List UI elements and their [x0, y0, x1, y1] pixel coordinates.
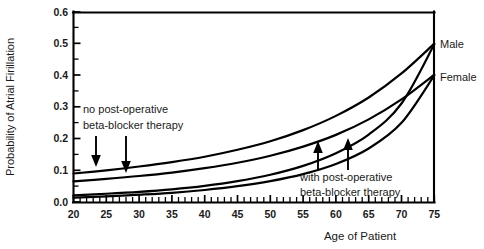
- chart-svg: 0.0 0.1 0.2 0.3 0.4 0.5 0.6: [0, 0, 484, 249]
- x-axis-title: Age of Patient: [324, 230, 397, 242]
- annotation-no-therapy-line1: no post-operative: [83, 103, 168, 115]
- x-tick-label: 40: [199, 208, 211, 220]
- x-tick-label: 65: [363, 208, 375, 220]
- x-tick-label: 45: [232, 208, 244, 220]
- y-tick-label: 0.6: [53, 6, 68, 18]
- x-tick-label: 25: [100, 208, 112, 220]
- x-tick-label: 30: [133, 208, 145, 220]
- x-tick-label: 35: [166, 208, 178, 220]
- x-tick-label: 60: [330, 208, 342, 220]
- series-label-female: Female: [440, 71, 477, 83]
- y-tick-label: 0.2: [53, 132, 68, 144]
- series-label-male: Male: [440, 38, 464, 50]
- y-tick-label: 0.1: [53, 164, 68, 176]
- annotation-arrow-down-1: [91, 136, 101, 167]
- annotation-with-therapy: with post-operative beta-blocker therapy: [299, 138, 401, 198]
- y-axis-title: Probability of Atrial Firillation: [4, 38, 16, 176]
- chart-figure: 0.0 0.1 0.2 0.3 0.4 0.5 0.6: [0, 0, 484, 249]
- annotation-arrow-up-1: [313, 141, 323, 170]
- y-tick-label: 0.4: [53, 69, 68, 81]
- y-tick-label: 0.3: [53, 100, 68, 112]
- annotation-arrow-up-2: [343, 138, 353, 170]
- y-tick-labels: 0.0 0.1 0.2 0.3 0.4 0.5 0.6: [53, 6, 68, 208]
- x-tick-label: 70: [396, 208, 408, 220]
- annotation-no-therapy-line2: beta-blocker therapy: [83, 119, 184, 131]
- x-tick-labels: 20 25 30 35 40 45 50 55 60 65 70 75: [68, 208, 441, 220]
- x-tick-label: 20: [68, 208, 80, 220]
- x-tick-label: 75: [428, 208, 440, 220]
- x-tick-label: 55: [297, 208, 309, 220]
- x-tick-label: 50: [264, 208, 276, 220]
- y-tick-label: 0.5: [53, 37, 68, 49]
- annotation-with-therapy-line1: with post-operative: [299, 171, 392, 183]
- annotation-with-therapy-line2: beta-blocker therapy: [300, 186, 401, 198]
- series-endpoint-labels: Male Female: [440, 38, 477, 83]
- y-tick-label: 0.0: [53, 196, 68, 208]
